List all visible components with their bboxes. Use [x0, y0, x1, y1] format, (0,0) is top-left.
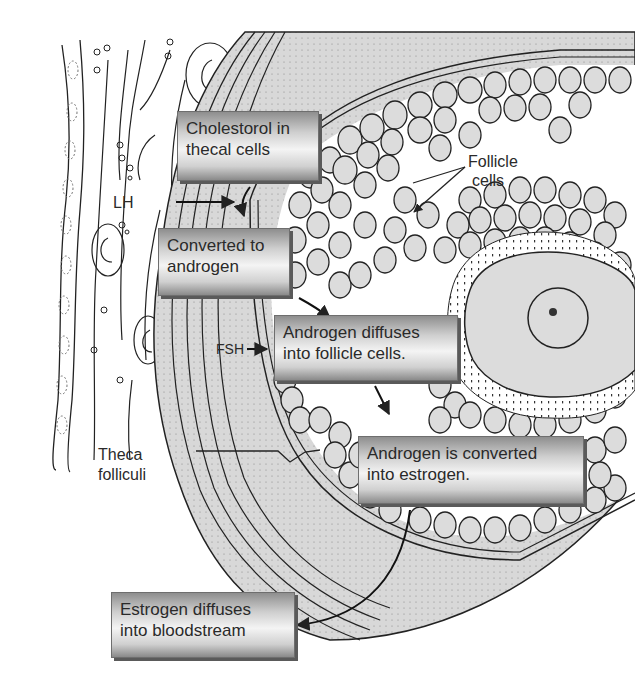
- theca-label-1: Theca: [98, 445, 142, 464]
- step-estrogen-box: Androgen is converted into estrogen.: [358, 436, 584, 504]
- oocyte: [448, 232, 635, 418]
- step-2-line-1: Converted to: [167, 235, 281, 256]
- step-3-line-1: Androgen diffuses: [283, 322, 449, 343]
- follicle-cells-label-2: cells: [472, 171, 504, 190]
- step-5-line-2: into bloodstream: [120, 620, 286, 641]
- theca-label-2: folliculi: [98, 465, 146, 484]
- blood-vessel: [53, 40, 84, 472]
- step-2-line-2: androgen: [167, 256, 281, 277]
- step-cholesterol-box: Cholestorol in thecal cells: [177, 111, 319, 181]
- step-4-line-1: Androgen is converted: [367, 443, 575, 464]
- step-diffuse-follicle-box: Androgen diffuses into follicle cells.: [274, 315, 458, 381]
- step-5-line-1: Estrogen diffuses: [120, 599, 286, 620]
- step-1-line-2: thecal cells: [186, 139, 310, 160]
- step-4-line-2: into estrogen.: [367, 464, 575, 485]
- fsh-label: FSH: [216, 340, 244, 359]
- nucleolus: [549, 308, 557, 316]
- step-3-line-2: into follicle cells.: [283, 343, 449, 364]
- follicle-cells-label-1: Follicle: [468, 152, 518, 171]
- step-1-line-1: Cholestorol in: [186, 118, 310, 139]
- step-bloodstream-box: Estrogen diffuses into bloodstream: [111, 592, 295, 658]
- step-androgen-box: Converted to androgen: [158, 228, 290, 296]
- lh-label: LH: [113, 193, 133, 212]
